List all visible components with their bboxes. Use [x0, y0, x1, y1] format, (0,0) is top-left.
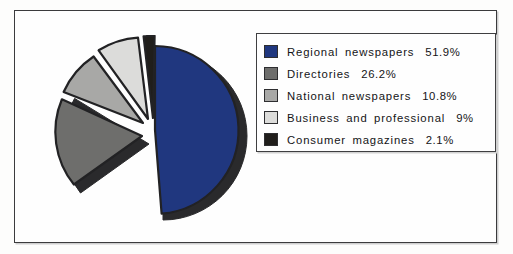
chart-legend: Regional newspapers 51.9% Directories 26…	[256, 33, 496, 152]
legend-label-consumer-magazines: Consumer magazines	[287, 134, 415, 146]
legend-label-regional-newspapers: Regional newspapers	[287, 46, 414, 58]
page-background: Regional newspapers 51.9% Directories 26…	[0, 0, 513, 254]
legend-value-consumer-magazines: 2.1%	[426, 134, 454, 146]
pie-chart	[51, 35, 251, 225]
swatch-national-newspapers	[264, 89, 278, 102]
legend-value-national-newspapers: 10.8%	[422, 90, 457, 102]
legend-item-business-and-professional: Business and professional 9%	[264, 107, 495, 128]
pie-chart-svg	[51, 35, 251, 225]
legend-item-national-newspapers: National newspapers 10.8%	[264, 85, 495, 106]
swatch-consumer-magazines	[264, 133, 278, 146]
legend-item-consumer-magazines: Consumer magazines 2.1%	[264, 129, 495, 150]
chart-frame: Regional newspapers 51.9% Directories 26…	[14, 10, 497, 243]
legend-item-directories: Directories 26.2%	[264, 63, 495, 84]
legend-label-business-and-professional: Business and professional	[287, 112, 445, 124]
legend-item-regional-newspapers: Regional newspapers 51.9%	[264, 41, 495, 62]
swatch-directories	[264, 67, 278, 80]
legend-value-directories: 26.2%	[361, 68, 396, 80]
legend-value-regional-newspapers: 51.9%	[425, 46, 460, 58]
legend-label-national-newspapers: National newspapers	[287, 90, 411, 102]
swatch-business-and-professional	[264, 111, 278, 124]
legend-value-business-and-professional: 9%	[456, 112, 474, 124]
swatch-regional-newspapers	[264, 45, 278, 58]
legend-label-directories: Directories	[287, 68, 350, 80]
